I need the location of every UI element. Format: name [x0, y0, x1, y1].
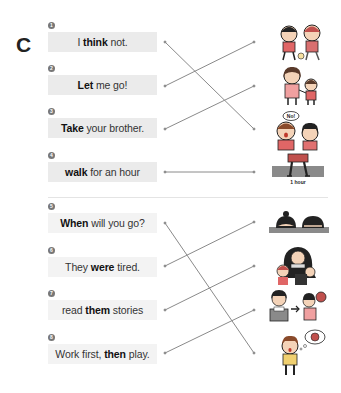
match-line-3-2 — [165, 86, 254, 129]
speech-bubble-text: No! — [287, 113, 296, 119]
kids-playing-ball-picture — [272, 22, 330, 62]
match-line-1-3 — [165, 42, 254, 129]
kids-saying-no-picture: No! — [270, 110, 326, 152]
match-line-8-7 — [165, 310, 254, 353]
kids-sleeping-at-desk-picture — [268, 210, 330, 236]
study-then-play-picture — [267, 289, 329, 325]
adult-reading-to-children-picture — [270, 244, 322, 286]
match-line-7-6 — [165, 266, 254, 310]
one-hour-caption: 1 hour — [278, 179, 318, 185]
match-line-6-5 — [165, 222, 254, 266]
mother-and-child-holding-hands-picture — [276, 66, 326, 106]
boy-thinking-picture — [275, 329, 327, 377]
match-line-2-1 — [165, 42, 254, 86]
